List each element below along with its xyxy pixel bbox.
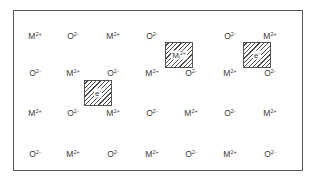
ion-symbol: O — [146, 31, 153, 41]
ion-charge: 2- — [192, 149, 197, 155]
ion-symbol: O — [185, 68, 192, 78]
ion-charge: 2- — [74, 31, 79, 37]
oxide-anion: O2- — [29, 149, 41, 159]
defect-label: Mi2+ — [171, 51, 187, 60]
ion-charge: 2- — [36, 68, 41, 74]
ion-symbol: O — [185, 149, 192, 159]
ion-charge: 2- — [36, 149, 41, 155]
metal-cation: M2+ — [145, 149, 158, 159]
ion-symbol: O — [67, 108, 74, 118]
ion-charge: 2- — [153, 108, 158, 114]
ion-charge: 2+ — [73, 68, 79, 74]
ion-charge: 2+ — [270, 31, 276, 37]
ion-charge: 2- — [153, 31, 158, 37]
metal-cation: M2+ — [66, 149, 79, 159]
metal-cation: M2+ — [263, 31, 276, 41]
ion-symbol: O — [224, 108, 231, 118]
ion-charge: 2+ — [270, 108, 276, 114]
ion-charge: 2+ — [230, 68, 236, 74]
ion-symbol: O — [146, 108, 153, 118]
oxide-anion: O2- — [146, 31, 158, 41]
ion-charge: 2- — [231, 31, 236, 37]
ion-charge: 2+ — [152, 68, 158, 74]
metal-cation: M2+ — [106, 31, 119, 41]
metal-cation: M2+ — [66, 68, 79, 78]
ion-charge: 2+ — [73, 149, 79, 155]
oxide-anion: O2- — [264, 149, 276, 159]
ion-symbol: O — [264, 149, 271, 159]
oxide-anion: O2- — [185, 68, 197, 78]
ion-charge: 2- — [114, 149, 119, 155]
oxide-anion: O2- — [107, 68, 119, 78]
metal-cation: M2+ — [223, 68, 236, 78]
ion-charge: 2- — [74, 108, 79, 114]
metal-cation: M2+ — [263, 108, 276, 118]
ion-charge: 2- — [231, 108, 236, 114]
ion-symbol: O — [67, 31, 74, 41]
oxide-anion: O2- — [264, 68, 276, 78]
ion-symbol: O — [264, 68, 271, 78]
defect-label: e- — [94, 89, 102, 98]
ion-charge: 2- — [271, 68, 276, 74]
ion-charge: 2- — [271, 149, 276, 155]
metal-cation: M2+ — [145, 68, 158, 78]
metal-cation: M2+ — [184, 108, 197, 118]
metal-cation: M2+ — [28, 108, 41, 118]
ion-charge: 2+ — [113, 31, 119, 37]
electron-trap-defect: e- — [243, 42, 271, 68]
ion-charge: 2+ — [191, 108, 197, 114]
ion-charge: 2+ — [113, 108, 119, 114]
oxide-anion: O2- — [67, 108, 79, 118]
ion-symbol: O — [107, 149, 114, 159]
ion-charge: 2- — [192, 68, 197, 74]
oxide-anion: O2- — [224, 31, 236, 41]
oxide-anion: O2- — [185, 149, 197, 159]
ion-symbol: O — [107, 68, 114, 78]
defect-label: e- — [253, 51, 261, 60]
metal-cation: M2+ — [28, 31, 41, 41]
oxide-anion: O2- — [67, 31, 79, 41]
ion-symbol: O — [29, 149, 36, 159]
metal-cation: M2+ — [106, 108, 119, 118]
ion-symbol: O — [224, 31, 231, 41]
ion-charge: 2- — [114, 68, 119, 74]
ion-symbol: O — [29, 68, 36, 78]
ion-charge: 2+ — [35, 108, 41, 114]
ion-charge: 2+ — [35, 31, 41, 37]
metal-cation: M2+ — [223, 149, 236, 159]
oxide-anion: O2- — [224, 108, 236, 118]
oxide-anion: O2- — [29, 68, 41, 78]
oxide-anion: O2- — [146, 108, 158, 118]
ion-charge: 2+ — [152, 149, 158, 155]
ion-charge: 2+ — [230, 149, 236, 155]
oxide-anion: O2- — [107, 149, 119, 159]
interstitial-defect: Mi2+ — [165, 42, 193, 68]
electron-trap-defect: e- — [84, 80, 112, 106]
